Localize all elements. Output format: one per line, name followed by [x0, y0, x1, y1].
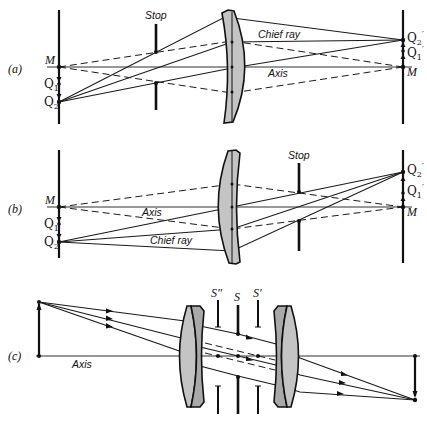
label-s-prime: S′ [253, 286, 262, 300]
arrow-down-icon [57, 217, 62, 222]
arrow-up-icon [401, 54, 406, 59]
point-q1-prime [401, 49, 405, 53]
panel-c-label: (c) [8, 349, 21, 363]
panel-c: (c) Axis [8, 286, 420, 414]
label-q1-prime: Q1′ [407, 182, 424, 200]
label-q2: Q2 [44, 235, 59, 251]
lens-dot [231, 183, 234, 186]
axis-point-s [236, 354, 240, 358]
arrow-right-icon [106, 309, 113, 314]
lens-dot [231, 66, 234, 69]
chief-ray-label: Chief ray [150, 234, 193, 246]
label-s-double-prime: S″ [211, 286, 223, 300]
lens-2-rear-element [282, 306, 299, 407]
arrow-up-icon [37, 303, 42, 310]
stop-edge-dot [236, 375, 240, 379]
point-q2-prime [401, 170, 405, 174]
label-m: M [44, 193, 56, 207]
axis-label: Axis [267, 67, 289, 79]
stop-edge-dot [236, 332, 240, 336]
label-m-prime: M [406, 65, 418, 79]
axis-label: Axis [141, 206, 163, 218]
label-m: M [44, 53, 56, 67]
optics-diagram: (a) M Q1 Q2 Stop Chief ray Axis [0, 0, 427, 421]
label-q2: Q2 [44, 95, 59, 111]
stop-edge-dot [297, 219, 301, 223]
arrow-right-icon [246, 356, 253, 361]
label-s: S [234, 290, 240, 304]
label-q1-prime: Q1′ [407, 44, 424, 62]
arrow-up-icon [401, 42, 406, 47]
chief-ray-s-prime [205, 343, 275, 360]
label-q1: Q1 [44, 77, 59, 93]
arrow-up-icon [401, 176, 406, 181]
arrow-down-icon [57, 94, 62, 99]
point-m-prime [401, 205, 405, 209]
point-m-prime [401, 65, 405, 69]
axis-point-s-prime [256, 354, 260, 358]
image-point [413, 398, 417, 402]
arrow-down-icon [57, 234, 62, 239]
label-m-prime: M [406, 205, 418, 219]
arrow-down-icon [413, 391, 418, 398]
lens-dot [231, 91, 234, 94]
lens-dot [231, 228, 234, 231]
lens-dot [231, 41, 234, 44]
object-base [37, 354, 41, 358]
panel-b-label: (b) [8, 202, 22, 216]
stop-label: Stop [288, 149, 310, 161]
stop-edge-dot [297, 190, 301, 194]
panel-a: (a) M Q1 Q2 Stop Chief ray Axis [8, 9, 424, 124]
ray-chief [39, 302, 415, 400]
lens-dot [231, 206, 234, 209]
image-base [413, 354, 417, 358]
panel-a-label: (a) [8, 62, 22, 76]
label-q2-prime: Q2′ [407, 161, 424, 179]
arrow-right-icon [246, 335, 253, 340]
arrow-down-icon [57, 77, 62, 82]
point-q2-prime [401, 38, 405, 42]
meniscus-lens [218, 150, 240, 264]
arrow-right-icon [341, 371, 348, 376]
point-q1-prime [401, 191, 405, 195]
chief-ray-label: Chief ray [258, 28, 301, 40]
arrow-up-icon [401, 196, 406, 201]
panel-b: (b) M Q1 Q2 Stop Axis Chief ray [8, 149, 424, 264]
stop-label: Stop [145, 9, 167, 21]
label-q1: Q1 [44, 217, 59, 233]
axis-label: Axis [71, 358, 93, 370]
axis-point-s-double-prime [216, 354, 220, 358]
